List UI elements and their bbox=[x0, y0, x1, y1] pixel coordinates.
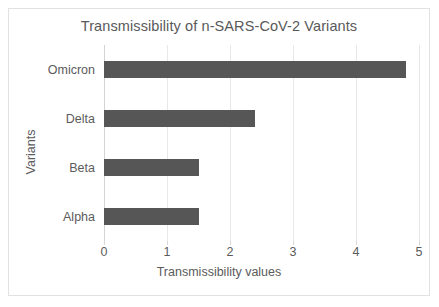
plot-area: OmicronDeltaBetaAlpha bbox=[104, 45, 419, 241]
bar-delta[interactable] bbox=[104, 110, 255, 127]
bar-omicron[interactable] bbox=[104, 61, 406, 78]
x-tick-label-4: 4 bbox=[353, 245, 360, 259]
bar-row: Delta bbox=[104, 94, 419, 143]
bars-group: OmicronDeltaBetaAlpha bbox=[104, 45, 419, 241]
y-tick-label-alpha: Alpha bbox=[15, 210, 95, 224]
x-tick-label-5: 5 bbox=[416, 245, 423, 259]
x-tick-label-1: 1 bbox=[164, 245, 171, 259]
bar-beta[interactable] bbox=[104, 159, 199, 176]
x-axis-tick-labels: 012345 bbox=[104, 245, 419, 261]
bar-row: Beta bbox=[104, 143, 419, 192]
x-tick-label-3: 3 bbox=[290, 245, 297, 259]
chart-title: Transmissibility of n-SARS-CoV-2 Variant… bbox=[9, 18, 429, 34]
x-axis-title: Transmissibility values bbox=[9, 265, 429, 279]
bar-row: Omicron bbox=[104, 45, 419, 94]
x-tick-label-0: 0 bbox=[101, 245, 108, 259]
x-tick-label-2: 2 bbox=[227, 245, 234, 259]
y-tick-label-delta: Delta bbox=[15, 112, 95, 126]
chart-container: Transmissibility of n-SARS-CoV-2 Variant… bbox=[8, 8, 430, 296]
bar-row: Alpha bbox=[104, 192, 419, 241]
bar-alpha[interactable] bbox=[104, 208, 199, 225]
gridline-5 bbox=[419, 45, 420, 241]
y-tick-label-beta: Beta bbox=[15, 161, 95, 175]
y-tick-label-omicron: Omicron bbox=[15, 63, 95, 77]
y-axis-title: Variants bbox=[21, 9, 41, 295]
